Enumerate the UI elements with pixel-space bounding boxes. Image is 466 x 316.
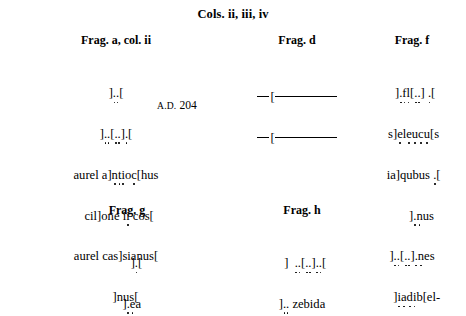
date-annotation: A.D. 204: [157, 99, 197, 112]
dash-rule: [275, 96, 337, 97]
text-line: [: [222, 90, 372, 104]
text-line: ].ea: [38, 298, 216, 312]
text-line: ].[: [38, 257, 216, 271]
dash-rule: [275, 137, 337, 138]
bracket-open: [: [270, 91, 274, 104]
page-root: Cols. ii, iii, iv Frag. a, col. ii ]..[ …: [0, 0, 466, 316]
text-line: ] ..[..]..[: [202, 257, 402, 271]
fragment-d-lines: [ [: [222, 63, 372, 172]
fragment-a-heading: Frag. a, col. ii: [6, 33, 226, 48]
text-line: ].. zebida: [202, 298, 402, 312]
fragment-d-block: Frag. d [ [: [222, 33, 372, 172]
fragment-g-heading: Frag. g: [38, 203, 216, 218]
fragment-g-block: Frag. g ].[ ].ea ]ba.na ]has[: [38, 203, 216, 316]
text-line: s]eleucu[s: [360, 128, 464, 142]
text-line: ]..[..].[: [6, 128, 226, 142]
dash-rule: [257, 137, 269, 138]
fragment-d-heading: Frag. d: [222, 33, 372, 48]
text-line: aurel a]ntioc[hus: [6, 169, 226, 183]
fragment-h-heading: Frag. h: [202, 203, 402, 218]
dash-rule: [257, 96, 269, 97]
text-line: ia]qubus .[: [360, 169, 464, 183]
page-title: Cols. ii, iii, iv: [0, 7, 466, 22]
fragment-h-block: Frag. h ] ..[..]..[ ].. zebida ]auid[a]l…: [202, 203, 402, 316]
date-annotation-prefix: A.D.: [157, 100, 176, 111]
text-line: [: [222, 131, 372, 145]
date-annotation-year: 204: [179, 99, 196, 112]
fragment-f-heading: Frag. f: [360, 33, 464, 48]
text-line: ].fl[..] .[: [360, 87, 464, 101]
bracket-open: [: [270, 132, 274, 145]
fragment-g-lines: ].[ ].ea ]ba.na ]has[: [38, 230, 216, 316]
fragment-h-lines: ] ..[..]..[ ].. zebida ]auid[a]lathi ]. …: [202, 230, 402, 316]
